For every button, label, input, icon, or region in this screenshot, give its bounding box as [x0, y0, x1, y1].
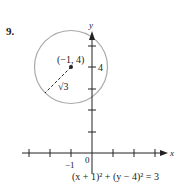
y-tick-label-4: 4 — [98, 62, 103, 73]
y-axis-label: y — [88, 20, 93, 30]
x-axis-arrow-icon — [160, 150, 168, 156]
x-tick-label-minus-1: −1 — [65, 160, 75, 170]
radius-label: √3 — [58, 81, 69, 92]
origin-label: 0 — [85, 155, 90, 165]
center-label: (−1, 4) — [57, 54, 84, 66]
problem-number: 9. — [6, 25, 15, 37]
circle-graph: 9. x y 4 −1 0 (−1, 4) √3 (x + 1)² + (y −… — [0, 0, 184, 196]
x-axis-label: x — [169, 148, 174, 158]
circle-equation: (x + 1)² + (y − 4)² = 3 — [72, 171, 159, 183]
